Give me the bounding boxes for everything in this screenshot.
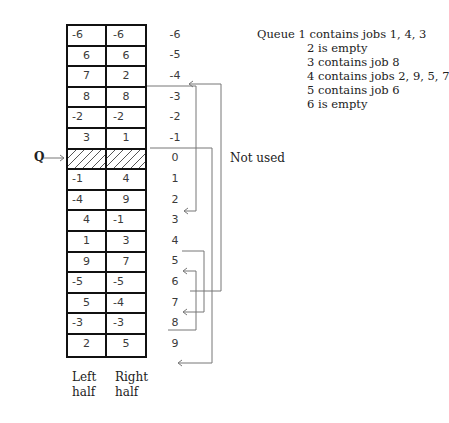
legend-line: 5 contains job 6 xyxy=(257,83,449,97)
link-arrow-0-to-9 xyxy=(150,148,212,366)
queue-legend: Queue 1 contains jobs 1, 4, 3 2 is empty… xyxy=(257,27,449,111)
link-arrow-6-to-minus4 xyxy=(189,81,221,291)
legend-line: 2 is empty xyxy=(257,41,449,55)
legend-line: 3 contains job 8 xyxy=(257,55,449,69)
q-pointer-arrow xyxy=(44,155,64,161)
legend-text: 1 contains jobs 1, 4, 3 xyxy=(299,27,427,41)
legend-line: 6 is empty xyxy=(257,97,449,111)
link-arrow-8-to-5 xyxy=(168,268,196,330)
legend-prefix: Queue xyxy=(257,27,299,41)
legend-line: Queue 1 contains jobs 1, 4, 3 xyxy=(257,27,449,41)
link-arrow-4-to-8 xyxy=(182,251,204,315)
link-arrow-minus3-to-3 xyxy=(147,86,196,214)
legend-line: 4 contains jobs 2, 9, 5, 7 xyxy=(257,69,449,83)
